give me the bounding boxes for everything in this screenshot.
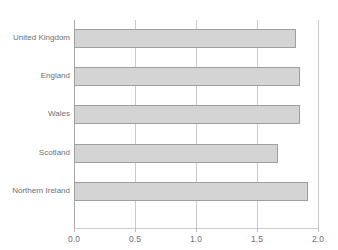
bar-scotland [74, 144, 278, 163]
x-tick-mark-0-0 [74, 228, 75, 232]
y-axis-label-northern-ireland: Northern Ireland [0, 186, 70, 196]
y-axis-label-scotland: Scotland [0, 148, 70, 158]
bar-wales [74, 105, 300, 124]
x-tick-mark-2-0 [318, 228, 319, 232]
x-tick-label-1-0: 1.0 [176, 234, 216, 245]
y-axis-label-england: England [0, 71, 70, 81]
bar-england [74, 67, 300, 86]
bar-chart: United Kingdom England Wales Scotland No… [0, 0, 338, 250]
y-axis-category-labels: United Kingdom England Wales Scotland No… [0, 0, 70, 250]
x-tick-mark-1-5 [257, 228, 258, 232]
x-tick-label-0-0: 0.0 [54, 234, 94, 245]
plot-area [74, 20, 318, 228]
x-tick-mark-1-0 [196, 228, 197, 232]
x-tick-mark-0-5 [135, 228, 136, 232]
x-tick-label-1-5: 1.5 [237, 234, 277, 245]
x-tick-label-2-0: 2.0 [298, 234, 338, 245]
y-axis-label-united-kingdom: United Kingdom [0, 33, 70, 43]
bar-northern-ireland [74, 182, 308, 201]
bar-united-kingdom [74, 29, 296, 48]
y-axis-label-wales: Wales [0, 109, 70, 119]
gridline-2-0 [318, 20, 319, 228]
x-tick-label-0-5: 0.5 [115, 234, 155, 245]
